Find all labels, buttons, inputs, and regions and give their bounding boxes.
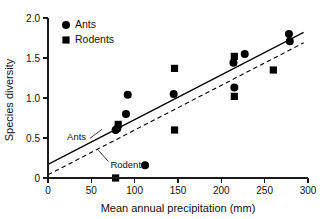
- point-rodents-6: [270, 66, 277, 73]
- point-ants-5: [170, 90, 178, 98]
- point-ants-3: [124, 91, 132, 99]
- annotation-ants: Ants: [67, 131, 86, 142]
- point-rodents-1: [115, 121, 122, 128]
- legend-label-rodents: Rodents: [75, 33, 114, 45]
- y-tick-label-1: 0.5: [26, 133, 40, 144]
- leader-line-rodents: [98, 150, 108, 161]
- point-rodents-3: [171, 126, 178, 133]
- x-tick-label-1: 50: [86, 185, 98, 196]
- chart-canvas: 00.51.01.52.0050100150200250300 AntsRode…: [0, 0, 320, 219]
- point-ants-10: [286, 37, 294, 45]
- scatter-plot-figure: 00.51.01.52.0050100150200250300 AntsRode…: [0, 0, 320, 219]
- point-ants-7: [230, 84, 238, 92]
- x-tick-label-6: 300: [300, 185, 317, 196]
- point-rodents-4: [231, 53, 238, 60]
- legend-marker-rodents: [62, 36, 69, 43]
- x-tick-label-4: 200: [213, 185, 230, 196]
- regression-lines-layer: [48, 32, 304, 174]
- annotation-rodents: Rodents: [110, 159, 146, 170]
- legend-marker-ants: [62, 21, 70, 29]
- y-tick-label-0: 0: [34, 173, 40, 184]
- tick-labels-layer: 00.51.01.52.0050100150200250300: [26, 13, 317, 197]
- x-axis-title: Mean annual precipitation (mm): [101, 202, 256, 214]
- point-ants-9: [285, 30, 293, 38]
- fit-line-ants: [48, 32, 304, 164]
- y-tick-label-3: 1.5: [26, 53, 40, 64]
- point-rodents-2: [171, 65, 178, 72]
- x-tick-label-2: 100: [126, 185, 143, 196]
- legend: AntsRodents: [62, 18, 114, 45]
- point-ants-8: [241, 50, 249, 58]
- series-annotations-layer: AntsRodents: [67, 131, 146, 170]
- point-rodents-5: [231, 93, 238, 100]
- point-ants-2: [122, 110, 130, 118]
- fit-line-rodents: [48, 43, 304, 175]
- x-tick-label-5: 250: [256, 185, 273, 196]
- x-tick-label-3: 150: [170, 185, 187, 196]
- legend-label-ants: Ants: [75, 18, 96, 30]
- x-tick-label-0: 0: [45, 185, 51, 196]
- y-tick-label-4: 2.0: [26, 13, 40, 24]
- y-axis-title: Species diversity: [3, 58, 15, 141]
- y-tick-label-2: 1.0: [26, 93, 40, 104]
